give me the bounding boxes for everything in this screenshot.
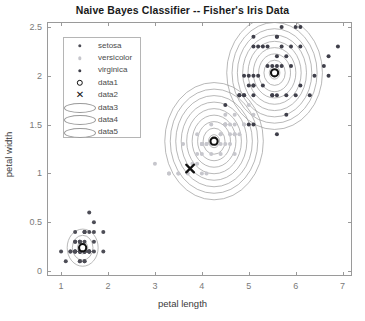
x-tick-label: 1 xyxy=(59,281,64,291)
figure-canvas: Naive Bayes Classifier -- Fisher's Iris … xyxy=(0,0,365,321)
legend-box[interactable]: setosaversicolorvirginicadata1✕data2data… xyxy=(63,37,141,138)
legend-item-setosa[interactable]: setosa xyxy=(64,40,142,53)
legend-item-data4[interactable]: data4 xyxy=(64,114,142,127)
marker-circle-data1 xyxy=(271,69,278,76)
marker-circle-data1 xyxy=(210,138,217,145)
y-tick-mark xyxy=(348,125,352,126)
legend-item-label: virginica xyxy=(98,64,127,77)
legend-marker-ellipse xyxy=(64,102,98,115)
x-tick-label: 4 xyxy=(199,281,204,291)
legend-item-label: data1 xyxy=(98,77,118,90)
legend-marker-dot xyxy=(64,52,98,65)
legend-marker-circle-open xyxy=(64,77,98,90)
x-tick-mark xyxy=(343,22,344,26)
x-tick-mark xyxy=(108,272,109,276)
x-tick-label: 5 xyxy=(246,281,251,291)
marker-circle-data1 xyxy=(79,244,86,251)
legend-item-label: setosa xyxy=(98,40,122,53)
x-axis-label: petal length xyxy=(0,298,365,309)
x-tick-mark xyxy=(155,272,156,276)
x-tick-mark xyxy=(249,272,250,276)
x-tick-label: 6 xyxy=(293,281,298,291)
y-tick-mark xyxy=(348,222,352,223)
marker-group-data2 xyxy=(186,165,194,173)
legend-dot-icon xyxy=(78,69,81,72)
y-tick-mark xyxy=(47,27,51,28)
y-axis-label: petal width xyxy=(3,125,14,185)
y-tick-label: 0.5 xyxy=(12,217,42,227)
legend-item-data2[interactable]: ✕data2 xyxy=(64,89,142,102)
legend-item-data5[interactable]: data5 xyxy=(64,126,142,139)
x-tick-label: 7 xyxy=(340,281,345,291)
legend-item-label: data4 xyxy=(98,114,118,127)
x-tick-mark xyxy=(61,22,62,26)
y-tick-mark xyxy=(47,125,51,126)
x-tick-mark xyxy=(202,22,203,26)
legend-marker-ellipse xyxy=(64,114,98,127)
y-tick-label: 1.5 xyxy=(12,120,42,130)
legend-marker-cross: ✕ xyxy=(64,89,98,102)
legend-item-label: versicolor xyxy=(98,52,132,65)
x-tick-mark xyxy=(108,22,109,26)
y-tick-mark xyxy=(348,27,352,28)
x-tick-label: 2 xyxy=(105,281,110,291)
y-tick-mark xyxy=(348,76,352,77)
y-tick-label: 2.5 xyxy=(12,22,42,32)
legend-item-data1[interactable]: data1 xyxy=(64,77,142,90)
legend-circle-icon xyxy=(77,80,83,86)
x-tick-mark xyxy=(343,272,344,276)
x-tick-mark xyxy=(202,272,203,276)
legend-ellipse-icon xyxy=(64,115,96,125)
legend-item-virginica[interactable]: virginica xyxy=(64,64,142,77)
legend-marker-dot xyxy=(64,40,98,53)
legend-item-versicolor[interactable]: versicolor xyxy=(64,52,142,65)
y-tick-mark xyxy=(47,222,51,223)
y-tick-mark xyxy=(47,173,51,174)
y-tick-mark xyxy=(348,173,352,174)
y-tick-mark xyxy=(47,271,51,272)
x-tick-mark xyxy=(249,22,250,26)
legend-marker-dot xyxy=(64,64,98,77)
x-tick-mark xyxy=(155,22,156,26)
x-tick-mark xyxy=(296,272,297,276)
y-tick-mark xyxy=(348,271,352,272)
y-tick-label: 0 xyxy=(12,266,42,276)
x-tick-mark xyxy=(296,22,297,26)
y-tick-label: 2 xyxy=(12,71,42,81)
x-tick-mark xyxy=(61,272,62,276)
legend-cross-icon: ✕ xyxy=(76,90,84,100)
legend-ellipse-icon xyxy=(64,103,96,113)
legend-item-data3[interactable]: data3 xyxy=(64,102,142,115)
chart-title: Naive Bayes Classifier -- Fisher's Iris … xyxy=(0,4,365,16)
legend-ellipse-icon xyxy=(64,128,96,138)
legend-item-label: data3 xyxy=(98,102,118,115)
legend-item-label: data2 xyxy=(98,89,118,102)
marker-cross-data2 xyxy=(186,165,194,173)
legend-dot-icon xyxy=(78,56,81,59)
y-tick-mark xyxy=(47,76,51,77)
y-tick-label: 1 xyxy=(12,168,42,178)
legend-dot-icon xyxy=(78,44,81,47)
x-tick-label: 3 xyxy=(152,281,157,291)
legend-marker-ellipse xyxy=(64,126,98,139)
legend-item-label: data5 xyxy=(98,126,118,139)
